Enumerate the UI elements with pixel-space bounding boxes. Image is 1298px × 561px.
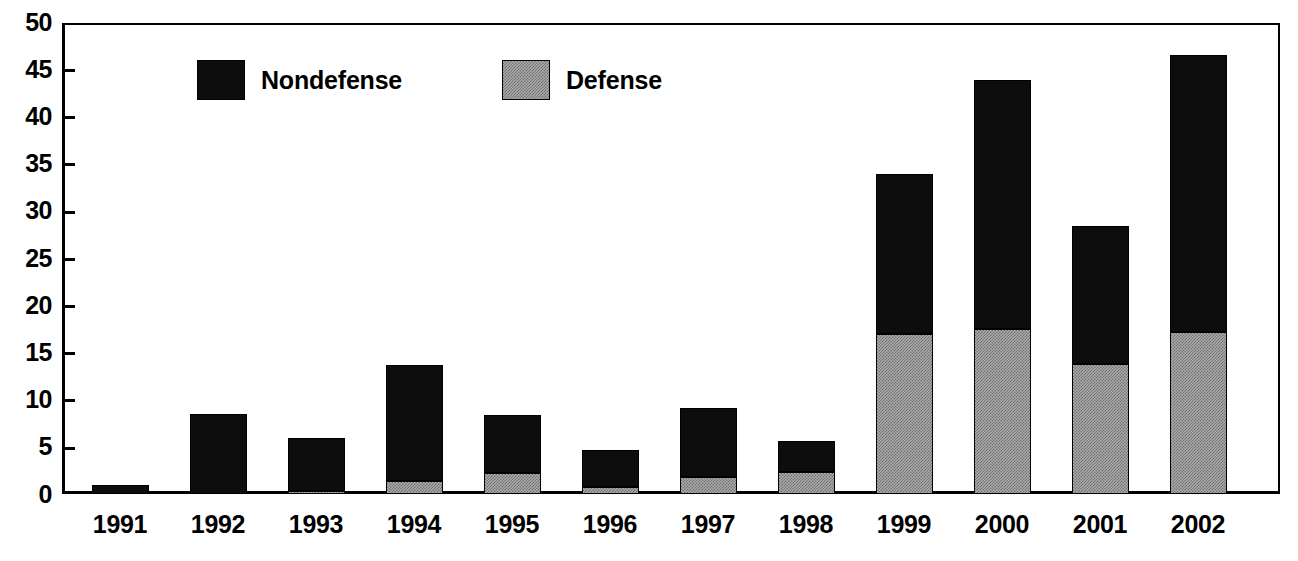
bar-1997 — [680, 408, 737, 494]
bar-1993 — [288, 438, 345, 494]
x-tick-label-2001: 2001 — [1050, 510, 1150, 539]
bar-segment-defense-2000 — [974, 329, 1031, 494]
x-tick-label-1992: 1992 — [168, 510, 268, 539]
x-tick-label-1998: 1998 — [756, 510, 856, 539]
bar-segment-nondefense-1995 — [484, 415, 541, 473]
legend-swatch-nondefense-icon — [197, 60, 245, 100]
bar-1998 — [778, 441, 835, 494]
x-tick-label-2002: 2002 — [1148, 510, 1248, 539]
x-axis-labels: 1991 1992 1993 1994 1995 1996 1997 1998 … — [0, 510, 1298, 550]
x-tick-label-1991: 1991 — [70, 510, 170, 539]
bar-1991 — [92, 485, 149, 494]
bar-segment-defense-1996 — [582, 487, 639, 494]
bar-segment-nondefense-1991 — [92, 485, 149, 494]
bar-segment-nondefense-1996 — [582, 450, 639, 487]
bar-1994 — [386, 365, 443, 494]
legend-swatch-defense-icon — [502, 60, 550, 100]
bar-1999 — [876, 174, 933, 494]
legend-entry-nondefense: Nondefense — [197, 58, 402, 102]
bar-segment-nondefense-1994 — [386, 365, 443, 481]
bar-1995 — [484, 415, 541, 494]
bar-segment-defense-1995 — [484, 473, 541, 494]
x-tick-label-1997: 1997 — [658, 510, 758, 539]
bar-segment-defense-1994 — [386, 481, 443, 494]
bar-segment-defense-1999 — [876, 334, 933, 494]
x-tick-label-1994: 1994 — [364, 510, 464, 539]
bar-2001 — [1072, 226, 1129, 494]
x-tick-label-1999: 1999 — [854, 510, 954, 539]
legend-label-defense: Defense — [566, 66, 662, 95]
bar-segment-defense-1998 — [778, 472, 835, 494]
x-tick-label-2000: 2000 — [952, 510, 1052, 539]
bar-segment-defense-1997 — [680, 477, 737, 494]
chart-root: 50 45 40 35 30 25 20 15 10 5 0 1991 1992… — [0, 0, 1298, 561]
bar-segment-defense-1993 — [288, 491, 345, 494]
bar-segment-nondefense-2001 — [1072, 226, 1129, 364]
legend-label-nondefense: Nondefense — [261, 66, 402, 95]
bar-segment-nondefense-1993 — [288, 438, 345, 491]
bar-1996 — [582, 450, 639, 494]
bar-segment-nondefense-1992 — [190, 414, 247, 494]
bar-2002 — [1170, 55, 1227, 494]
bar-segment-nondefense-2000 — [974, 80, 1031, 329]
x-tick-label-1993: 1993 — [266, 510, 366, 539]
bar-segment-nondefense-1998 — [778, 441, 835, 472]
bar-segment-defense-2001 — [1072, 364, 1129, 494]
bar-1992 — [190, 414, 247, 494]
bar-2000 — [974, 80, 1031, 494]
bar-segment-nondefense-1997 — [680, 408, 737, 477]
bar-segment-nondefense-2002 — [1170, 55, 1227, 332]
x-tick-label-1995: 1995 — [462, 510, 562, 539]
bar-segment-defense-2002 — [1170, 332, 1227, 494]
legend-entry-defense: Defense — [502, 58, 662, 102]
bar-segment-nondefense-1999 — [876, 174, 933, 334]
x-tick-label-1996: 1996 — [560, 510, 660, 539]
